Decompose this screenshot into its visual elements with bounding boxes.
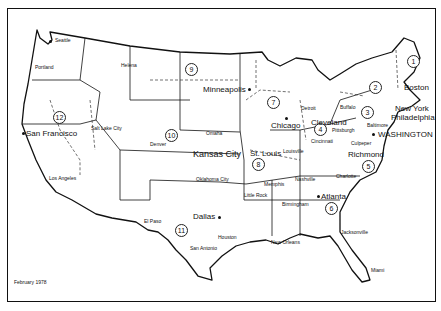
city-label-dallas: Dallas bbox=[193, 213, 215, 221]
city-label-richmond: Richmond bbox=[348, 151, 384, 159]
city-label-minneapolis: Minneapolis bbox=[203, 86, 246, 94]
city-dot-seattle bbox=[49, 40, 52, 43]
city-label-miami: Miami bbox=[371, 268, 384, 273]
city-dot-minneapolis bbox=[248, 88, 251, 91]
city-dot-dallas bbox=[218, 216, 221, 219]
city-dot-washington bbox=[372, 133, 375, 136]
city-label-new-york: New York bbox=[395, 105, 429, 113]
city-label-san-francisco: San Francisco bbox=[26, 130, 77, 138]
city-label-chicago: Chicago bbox=[271, 122, 300, 130]
city-label-san-antonio: San Antonio bbox=[190, 246, 217, 251]
city-label-louisville: Louisville bbox=[283, 149, 304, 154]
city-label-cleveland: Cleveland bbox=[311, 119, 347, 127]
city-label-nashville: Nashville bbox=[295, 177, 315, 182]
city-label-los-angeles: Los Angeles bbox=[49, 176, 76, 181]
district-marker-9: 9 bbox=[185, 63, 198, 76]
district-marker-3: 3 bbox=[361, 106, 374, 119]
city-label-new-orleans: New Orleans bbox=[271, 240, 300, 245]
city-dot-san-francisco bbox=[22, 132, 25, 135]
city-label-washington: WASHINGTON bbox=[378, 131, 433, 139]
city-label-cincinnati: Cincinnati bbox=[311, 139, 333, 144]
district-marker-7: 7 bbox=[267, 96, 280, 109]
district-marker-5: 5 bbox=[362, 160, 375, 173]
city-label-atlanta: Atlanta bbox=[321, 193, 346, 201]
city-label-portland: Portland bbox=[35, 65, 54, 70]
district-marker-10: 10 bbox=[165, 129, 178, 142]
city-label-kansas-city: Kansas City bbox=[193, 150, 241, 159]
city-label-oklahoma-city: Oklahoma City bbox=[196, 177, 229, 182]
city-label-baltimore: Baltimore bbox=[367, 123, 388, 128]
city-label-birmingham: Birmingham bbox=[282, 202, 309, 207]
city-label-helena: Helena bbox=[121, 63, 137, 68]
city-label-little-rock: Little Rock bbox=[244, 193, 267, 198]
city-label-jacksonville: Jacksonville bbox=[341, 230, 368, 235]
district-marker-11: 11 bbox=[175, 224, 188, 237]
city-label-houston: Houston bbox=[218, 235, 237, 240]
city-label-charlotte: Charlotte bbox=[336, 174, 356, 179]
city-label-el-paso: El Paso bbox=[144, 219, 161, 224]
city-label-salt-lake-city: Salt Lake City bbox=[91, 126, 122, 131]
district-marker-12: 12 bbox=[53, 111, 66, 124]
city-dot-atlanta bbox=[317, 195, 320, 198]
city-dot-chicago bbox=[285, 117, 288, 120]
district-marker-8: 8 bbox=[252, 158, 265, 171]
map-date-label: February 1978 bbox=[14, 279, 47, 285]
district-marker-6: 6 bbox=[325, 202, 338, 215]
city-label-pittsburgh: Pittsburgh bbox=[332, 128, 355, 133]
city-label-detroit: Detroit bbox=[301, 106, 316, 111]
city-label-denver: Denver bbox=[150, 142, 166, 147]
city-label-boston: Boston bbox=[404, 84, 429, 92]
city-label-seattle: Seattle bbox=[55, 38, 71, 43]
city-label-buffalo: Buffalo bbox=[340, 105, 355, 110]
city-label-philadelphia: Philadelphia bbox=[391, 114, 435, 122]
city-label-omaha: Omaha bbox=[206, 131, 222, 136]
city-label-memphis: Memphis bbox=[264, 182, 284, 187]
city-label-st-louis: St. Louis bbox=[250, 150, 281, 158]
district-marker-1: 1 bbox=[407, 55, 420, 68]
district-marker-2: 2 bbox=[369, 81, 382, 94]
city-label-culpeper: Culpeper bbox=[351, 141, 371, 146]
